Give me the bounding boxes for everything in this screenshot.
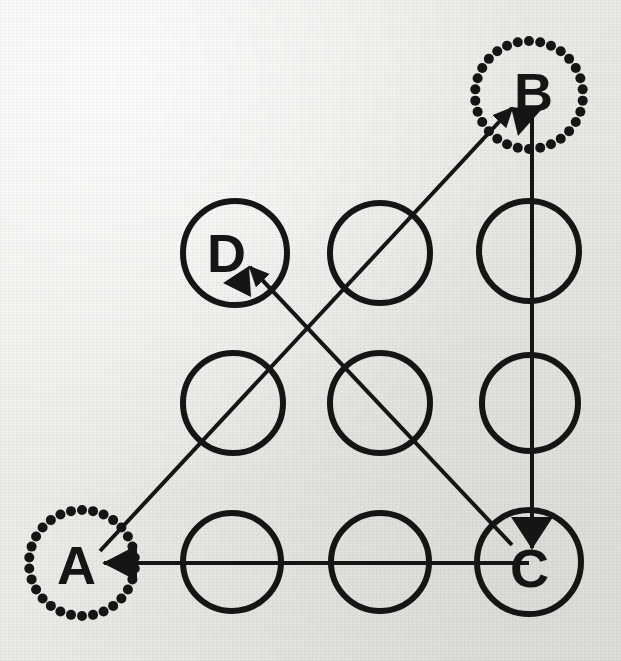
dot — [88, 610, 98, 620]
figure-canvas: A B C D — [0, 0, 621, 661]
dot — [502, 139, 512, 149]
gesture-path — [100, 108, 532, 563]
dot — [535, 37, 545, 47]
arrowhead-overlay — [103, 107, 553, 581]
dot — [108, 515, 118, 525]
dot — [77, 505, 87, 515]
dot — [38, 593, 48, 603]
dot — [99, 606, 109, 616]
dot — [556, 134, 566, 144]
dot — [38, 523, 48, 533]
pattern-lock-diagram: A B C D — [0, 0, 621, 661]
dot — [470, 96, 480, 106]
dot — [477, 117, 487, 127]
dot — [473, 73, 483, 83]
edge-a-to-b — [100, 108, 512, 551]
dot — [116, 523, 126, 533]
dot — [31, 532, 41, 542]
dot — [492, 134, 502, 144]
dot — [564, 126, 574, 136]
dot — [77, 611, 87, 621]
dot — [55, 510, 65, 520]
dot — [31, 585, 41, 595]
dot — [484, 54, 494, 64]
dot — [66, 506, 76, 516]
dot — [513, 37, 523, 47]
dot — [24, 552, 34, 562]
dot — [492, 46, 502, 56]
node-label-a: A — [57, 535, 95, 595]
dot — [524, 144, 534, 154]
dot — [484, 126, 494, 136]
edge-c-to-d — [250, 267, 512, 545]
dot — [502, 41, 512, 51]
dot — [470, 84, 480, 94]
dot — [571, 63, 581, 73]
dot — [473, 107, 483, 117]
dot — [524, 36, 534, 46]
dot — [535, 143, 545, 153]
dot — [46, 515, 56, 525]
dot — [556, 46, 566, 56]
node-label-c: C — [510, 538, 548, 598]
dot — [99, 510, 109, 520]
dot — [27, 574, 37, 584]
dot — [578, 96, 588, 106]
dot — [575, 107, 585, 117]
dot — [46, 601, 56, 611]
dot — [546, 41, 556, 51]
dot — [564, 54, 574, 64]
dot — [513, 143, 523, 153]
dot — [477, 63, 487, 73]
dot — [575, 73, 585, 83]
dot — [24, 564, 34, 574]
dot — [116, 593, 126, 603]
dot — [66, 610, 76, 620]
dot — [578, 84, 588, 94]
dot — [27, 542, 37, 552]
grid-node-r0c2[interactable] — [479, 201, 579, 301]
dot — [123, 532, 133, 542]
dot — [55, 606, 65, 616]
arrowhead-into-a — [103, 545, 137, 581]
dot — [546, 139, 556, 149]
dot — [123, 585, 133, 595]
dot — [571, 117, 581, 127]
dot — [88, 506, 98, 516]
dot — [108, 601, 118, 611]
